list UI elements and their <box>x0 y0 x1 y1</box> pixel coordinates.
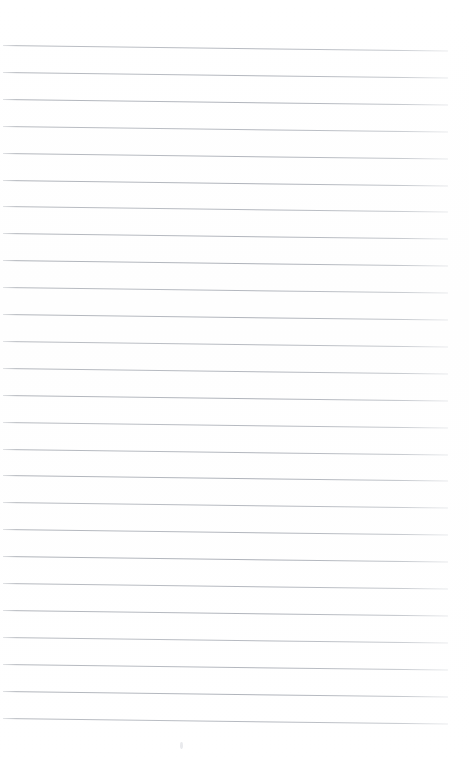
writing-area[interactable] <box>3 45 448 719</box>
notebook-page <box>0 0 469 764</box>
scan-speck <box>180 742 183 749</box>
